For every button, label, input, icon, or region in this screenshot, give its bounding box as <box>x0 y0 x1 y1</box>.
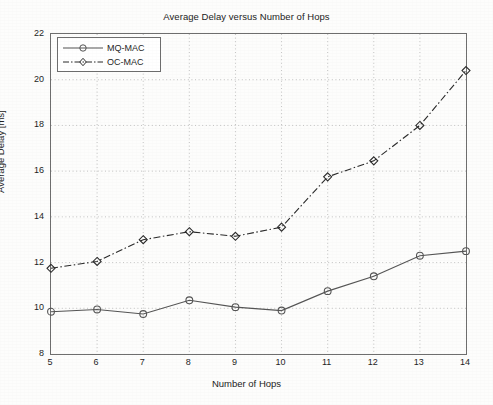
legend-label-0: MQ-MAC <box>107 43 145 53</box>
x-tick-label: 11 <box>322 357 331 367</box>
data-point-marker <box>462 67 470 75</box>
x-tick-label: 5 <box>47 357 52 367</box>
x-axis-label: Number of Hops <box>0 378 493 389</box>
y-tick-label: 14 <box>18 211 44 221</box>
legend-marker-circle-icon <box>62 42 104 54</box>
y-tick-label: 18 <box>18 119 44 129</box>
series-layer <box>47 67 470 318</box>
x-tick-label: 10 <box>276 357 286 367</box>
series-line-mq-mac <box>51 251 466 314</box>
chart-figure: Average Delay versus Number of Hops 8101… <box>0 0 493 405</box>
legend-label-1: OC-MAC <box>107 57 144 67</box>
x-tick-label: 9 <box>232 357 237 367</box>
y-axis-label: Average Delay [ms] <box>0 110 6 193</box>
x-tick-label: 14 <box>460 357 470 367</box>
x-tick-label: 13 <box>414 357 424 367</box>
legend-item-0: MQ-MAC <box>62 41 156 55</box>
legend-item-1: OC-MAC <box>62 55 156 69</box>
x-tick-label: 8 <box>186 357 191 367</box>
x-tick-label: 6 <box>94 357 99 367</box>
chart-legend: MQ-MAC OC-MAC <box>57 37 161 72</box>
plot-canvas <box>51 34 466 354</box>
legend-marker-diamond-icon <box>62 56 104 68</box>
y-tick-label: 22 <box>18 28 44 38</box>
gridlines <box>51 34 466 354</box>
x-tick-label: 12 <box>368 357 378 367</box>
plot-area <box>50 33 467 355</box>
y-tick-label: 10 <box>18 302 44 312</box>
y-tick-label: 8 <box>18 348 44 358</box>
y-tick-label: 16 <box>18 165 44 175</box>
chart-title: Average Delay versus Number of Hops <box>0 11 493 22</box>
y-tick-label: 20 <box>18 74 44 84</box>
x-tick-label: 7 <box>140 357 145 367</box>
series-line-oc-mac <box>51 71 466 269</box>
y-tick-label: 12 <box>18 257 44 267</box>
